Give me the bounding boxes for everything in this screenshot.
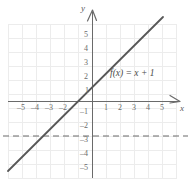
x-tick-3: 3 xyxy=(132,104,136,112)
x-tick-5: 5 xyxy=(160,104,164,112)
plot-canvas xyxy=(0,0,195,189)
x-tick-minus-3: –3 xyxy=(45,104,53,112)
y-tick-4: 4 xyxy=(84,45,88,53)
y-axis-label: y xyxy=(81,4,85,13)
y-tick-minus-4: –4 xyxy=(80,150,88,158)
function-graph-figure: y x 5 4 3 2 1 –1 –2 –3 –4 –5 –5 –4 –3 –2… xyxy=(0,0,195,189)
function-equation-label: f(x) = x + 1 xyxy=(110,69,154,79)
y-tick-minus-5: –5 xyxy=(80,164,88,172)
x-tick-minus-4: –4 xyxy=(31,104,39,112)
x-tick-4: 4 xyxy=(146,104,150,112)
x-tick-2: 2 xyxy=(118,104,122,112)
x-tick-minus-2: –2 xyxy=(59,104,67,112)
y-tick-minus-1: –1 xyxy=(80,108,88,116)
x-tick-minus-5: –5 xyxy=(17,104,25,112)
y-tick-minus-3: –3 xyxy=(80,136,88,144)
y-tick-minus-2: –2 xyxy=(80,122,88,130)
y-tick-1: 1 xyxy=(85,87,89,95)
y-tick-3: 3 xyxy=(84,59,88,67)
x-axis xyxy=(8,96,180,104)
y-tick-5: 5 xyxy=(84,31,88,39)
x-axis-label: x xyxy=(180,104,184,113)
y-tick-2: 2 xyxy=(84,73,88,81)
x-tick-1: 1 xyxy=(104,104,108,112)
